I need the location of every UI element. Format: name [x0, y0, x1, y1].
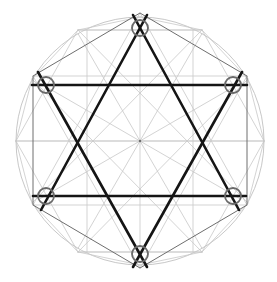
- dodecagon-edge: [16, 79, 32, 141]
- star-upward-right-edge: [133, 15, 239, 210]
- radial-line: [140, 83, 240, 141]
- dodecagon-edge: [248, 141, 264, 203]
- hexagon-diagonal: [33, 76, 140, 268]
- dodecagon-edge: [248, 79, 264, 141]
- dodecagon-edge: [16, 141, 32, 203]
- diagram-canvas: [0, 0, 277, 282]
- radial-line: [40, 83, 140, 141]
- hexagram-diagram: [0, 0, 277, 282]
- star-upward-left-edge: [41, 15, 147, 210]
- radial-line: [40, 141, 140, 199]
- hexagon-diagonal: [140, 76, 247, 268]
- center-point: [139, 140, 141, 142]
- radial-line: [140, 141, 240, 199]
